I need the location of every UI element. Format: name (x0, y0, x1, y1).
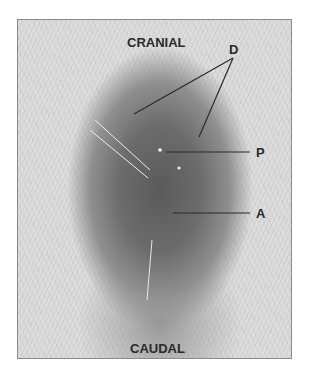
highlight-spot (177, 166, 180, 169)
label-caudal: CAUDAL (130, 342, 185, 355)
highlight-spot (158, 148, 162, 152)
leader-line-d-2 (199, 58, 233, 137)
hair-strand (90, 130, 148, 178)
label-p: P (256, 146, 265, 159)
leader-line-d-1 (134, 58, 233, 114)
label-cranial: CRANIAL (127, 36, 186, 49)
label-a: A (256, 207, 265, 220)
leader-lines (0, 0, 310, 377)
hair-strand (147, 240, 152, 300)
hair-strand (95, 120, 150, 170)
label-d: D (229, 43, 238, 56)
